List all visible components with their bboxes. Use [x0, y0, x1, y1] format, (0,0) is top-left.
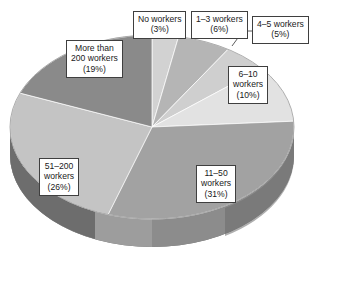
callout-11-50-workers: 11–50 workers (31%): [196, 165, 236, 203]
callout-more-than-200-workers: More than 200 workers (19%): [66, 40, 123, 78]
callout-no-workers-line1: No workers: [138, 14, 181, 24]
callout-51-200-workers-line3: (26%): [44, 182, 74, 192]
callout-6-10-workers-line3: (10%): [233, 90, 263, 100]
callout-6-10-workers: 6–10 workers (10%): [228, 66, 268, 104]
callout-no-workers-line2: (3%): [138, 24, 181, 34]
callout-11-50-workers-line3: (31%): [201, 189, 231, 199]
callout-4-5-workers-line2: (5%): [257, 29, 304, 39]
callout-1-3-workers-line1: 1–3 workers: [196, 14, 243, 24]
callout-more-than-200-workers-line3: (19%): [71, 64, 118, 74]
callout-6-10-workers-line2: workers: [233, 79, 263, 89]
callout-51-200-workers: 51–200 workers (26%): [39, 158, 79, 196]
callout-51-200-workers-line2: workers: [44, 171, 74, 181]
callout-11-50-workers-line2: workers: [201, 178, 231, 188]
callout-1-3-workers: 1–3 workers (6%): [191, 11, 248, 39]
callout-no-workers: No workers (3%): [133, 11, 186, 39]
callout-11-50-workers-line1: 11–50: [201, 168, 231, 178]
callout-4-5-workers: 4–5 workers (5%): [252, 16, 309, 44]
callout-4-5-workers-line1: 4–5 workers: [257, 19, 304, 29]
callout-6-10-workers-line1: 6–10: [233, 69, 263, 79]
callout-more-than-200-workers-line2: 200 workers: [71, 53, 118, 63]
pie-chart-figure: No workers (3%) 1–3 workers (6%) 4–5 wor…: [0, 0, 339, 284]
callout-51-200-workers-line1: 51–200: [44, 161, 74, 171]
callout-1-3-workers-line2: (6%): [196, 24, 243, 34]
callout-more-than-200-workers-line1: More than: [71, 43, 118, 53]
